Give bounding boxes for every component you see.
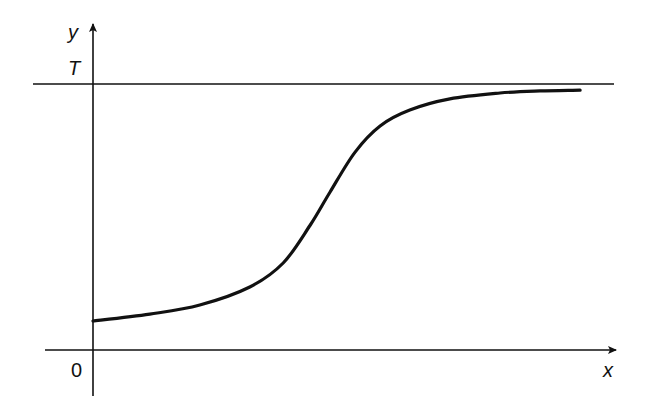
logistic-chart: y T 0 x	[0, 0, 646, 412]
origin-label: 0	[71, 359, 82, 381]
y-axis-label: y	[66, 21, 79, 43]
asymptote-label: T	[68, 57, 82, 79]
x-axis-label: x	[602, 359, 614, 381]
series-line	[93, 90, 580, 321]
